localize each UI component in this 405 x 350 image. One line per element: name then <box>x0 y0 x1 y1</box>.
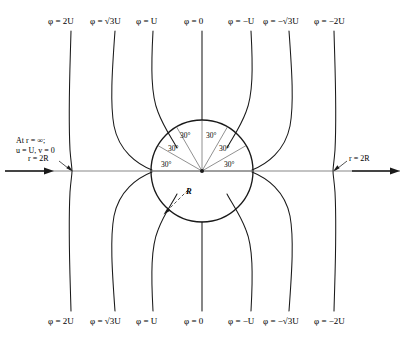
label-phi-2U-top: φ = 2U <box>48 16 74 26</box>
label-phi-2U-bottom-text: φ = 2U <box>48 316 74 326</box>
diagram-canvas <box>0 0 405 350</box>
label-phi-minussqrt3U-bottom: φ = −√3U <box>263 316 299 326</box>
label-phi-minus2U-bottom: φ = −2U <box>314 316 345 326</box>
label-phi-minusU-bottom: φ = −U <box>228 316 254 326</box>
label-phi-U-top-text: φ = U <box>136 16 157 26</box>
label-r-2R-left-text: r = 2R <box>28 154 49 163</box>
angle-label-6: 30° <box>224 160 235 169</box>
angle-label-3-text: 30° <box>180 131 191 140</box>
label-phi-sqrt3U-top-text: φ = √3U <box>90 16 121 26</box>
label-phi-0-bottom-text: φ = 0 <box>184 316 203 326</box>
label-phi-minus2U-top-text: φ = −2U <box>314 16 345 26</box>
center-point <box>200 169 204 173</box>
label-phi-2U-bottom: φ = 2U <box>48 316 74 326</box>
label-phi-U-bottom: φ = U <box>136 316 157 326</box>
radius-leader <box>164 190 189 215</box>
label-phi-minussqrt3U-bottom-text: φ = −√3U <box>263 316 299 326</box>
label-radius-R-text: R <box>186 186 192 196</box>
angle-label-2: 30° <box>168 144 179 153</box>
label-radius-R: R <box>186 186 192 196</box>
label-r-2R-right: r = 2R <box>349 154 370 163</box>
label-phi-minus2U-top: φ = −2U <box>314 16 345 26</box>
label-phi-sqrt3U-bottom-text: φ = √3U <box>90 316 121 326</box>
angle-label-1: 30° <box>161 160 172 169</box>
angle-label-2-text: 30° <box>168 144 179 153</box>
label-phi-sqrt3U-top: φ = √3U <box>90 16 121 26</box>
label-phi-minusU-bottom-text: φ = −U <box>228 316 254 326</box>
angle-label-5: 30° <box>219 144 230 153</box>
label-phi-sqrt3U-bottom: φ = √3U <box>90 316 121 326</box>
label-phi-0-top: φ = 0 <box>184 16 203 26</box>
label-phi-minussqrt3U-top: φ = −√3U <box>263 16 299 26</box>
label-phi-2U-top-text: φ = 2U <box>48 16 74 26</box>
angle-label-3: 30° <box>180 131 191 140</box>
r2r-right-arrowhead <box>333 165 340 171</box>
angle-label-5-text: 30° <box>219 144 230 153</box>
label-phi-0-bottom: φ = 0 <box>184 316 203 326</box>
angle-label-4: 30° <box>206 131 217 140</box>
boundary-condition-block: At r = ∞; u = U, v = 0 <box>16 136 55 156</box>
label-phi-minussqrt3U-top-text: φ = −√3U <box>263 16 299 26</box>
angle-label-1-text: 30° <box>161 160 172 169</box>
label-phi-U-bottom-text: φ = U <box>136 316 157 326</box>
inflow-arrowhead-left <box>44 167 54 174</box>
label-phi-0-top-text: φ = 0 <box>184 16 203 26</box>
boundary-condition-line1: At r = ∞; <box>16 136 55 146</box>
label-phi-minus2U-bottom-text: φ = −2U <box>314 316 345 326</box>
outflow-arrowhead-right <box>390 167 400 174</box>
label-r-2R-left: r = 2R <box>28 154 49 163</box>
label-phi-minusU-top-text: φ = −U <box>228 16 254 26</box>
potential-flow-diagram: φ = 2U φ = √3U φ = U φ = 0 φ = −U φ = −√… <box>0 0 405 350</box>
label-phi-U-top: φ = U <box>136 16 157 26</box>
angle-label-6-text: 30° <box>224 160 235 169</box>
label-phi-minusU-top: φ = −U <box>228 16 254 26</box>
angle-label-4-text: 30° <box>206 131 217 140</box>
label-r-2R-right-text: r = 2R <box>349 154 370 163</box>
